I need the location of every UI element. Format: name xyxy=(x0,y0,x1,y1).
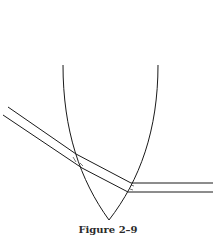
figure-canvas: Figure 2–9 xyxy=(0,0,216,238)
lens-left-curve xyxy=(63,65,109,220)
refraction-diagram xyxy=(0,0,216,238)
ray-lower xyxy=(3,115,213,192)
lens-right-curve xyxy=(109,65,158,220)
ray-upper xyxy=(8,107,213,183)
figure-caption: Figure 2–9 xyxy=(0,224,216,235)
